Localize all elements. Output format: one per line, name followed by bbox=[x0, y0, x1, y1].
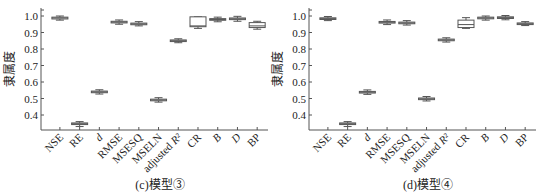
box-cr bbox=[458, 18, 474, 29]
box-nse bbox=[320, 16, 336, 20]
y-tick-label: 0.4 bbox=[24, 109, 38, 121]
box-d bbox=[91, 90, 107, 94]
x-tick-label: BP bbox=[513, 131, 531, 149]
x-tick-label: D bbox=[496, 131, 511, 146]
box-rmse bbox=[379, 20, 395, 25]
box-rmse bbox=[111, 20, 127, 24]
x-tick-label: CR bbox=[453, 130, 472, 149]
box-d bbox=[497, 16, 513, 20]
box-cr bbox=[190, 17, 206, 29]
box-d bbox=[229, 16, 245, 21]
box-msesq bbox=[399, 21, 415, 25]
x-tick-label: CR bbox=[185, 130, 204, 149]
chart-caption-c: (c)模型③ bbox=[100, 175, 220, 193]
box-mseln bbox=[419, 97, 435, 101]
box-re bbox=[340, 122, 356, 127]
y-tick-label: 0.8 bbox=[24, 43, 38, 55]
chart-panel-c: 0.40.50.60.70.80.91.0隶属度NSEREdRMSEMSESQM… bbox=[0, 0, 269, 195]
x-tick-label: B bbox=[210, 131, 223, 144]
x-tick-label: NSE bbox=[310, 131, 333, 154]
x-tick-label: RE bbox=[67, 131, 86, 150]
box-b bbox=[210, 17, 226, 22]
y-tick-label: 0.5 bbox=[24, 93, 38, 105]
box-re bbox=[72, 122, 88, 127]
box-nse bbox=[52, 16, 68, 20]
y-tick-label: 0.9 bbox=[24, 27, 38, 39]
y-tick-label: 0.9 bbox=[292, 27, 306, 39]
y-axis-label: 隶属度 bbox=[2, 51, 17, 87]
y-tick-label: 0.8 bbox=[292, 43, 306, 55]
boxplot-chart-d: 0.40.50.60.70.80.91.0隶属度NSEREdRMSEMSESQM… bbox=[268, 0, 538, 195]
y-tick-label: 0.5 bbox=[292, 93, 306, 105]
y-tick-label: 1.0 bbox=[24, 10, 38, 22]
box-adjustedr bbox=[438, 38, 454, 42]
x-tick-label: d bbox=[360, 131, 373, 144]
boxplot-chart-c: 0.40.50.60.70.80.91.0隶属度NSEREdRMSEMSESQM… bbox=[0, 0, 269, 195]
x-tick-label: RE bbox=[335, 131, 354, 150]
box-d bbox=[359, 90, 375, 94]
box-msesq bbox=[131, 22, 147, 26]
x-tick-label: d bbox=[92, 131, 105, 144]
y-tick-label: 1.0 bbox=[292, 10, 306, 22]
x-tick-label: B bbox=[478, 131, 491, 144]
y-tick-label: 0.4 bbox=[292, 109, 306, 121]
y-tick-label: 0.7 bbox=[292, 60, 306, 72]
chart-panel-d: 0.40.50.60.70.80.91.0隶属度NSEREdRMSEMSESQM… bbox=[268, 0, 538, 195]
chart-caption-d: (d)模型④ bbox=[368, 175, 488, 193]
x-tick-label: NSE bbox=[42, 131, 65, 154]
x-tick-label: BP bbox=[245, 131, 263, 149]
y-tick-label: 0.6 bbox=[24, 76, 38, 88]
y-axis-label: 隶属度 bbox=[270, 51, 285, 87]
box-bp bbox=[517, 22, 533, 26]
box-adjustedr bbox=[170, 39, 186, 43]
box-bp bbox=[249, 21, 265, 29]
y-tick-label: 0.7 bbox=[24, 60, 38, 72]
box-mseln bbox=[151, 98, 167, 102]
x-tick-label: D bbox=[228, 131, 243, 146]
y-tick-label: 0.6 bbox=[292, 76, 306, 88]
box-b bbox=[478, 16, 494, 20]
